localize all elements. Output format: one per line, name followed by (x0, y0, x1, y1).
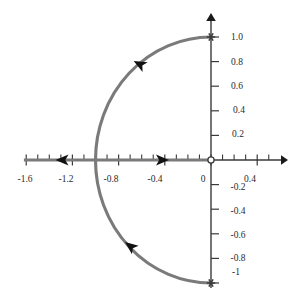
y-tick-label: 0.6 (231, 81, 243, 91)
x-tick-label: 0.4 (244, 174, 256, 184)
y-tick-label: -0.2 (230, 182, 245, 192)
x-tick-label: -1.6 (17, 174, 32, 184)
x-tick-label: -0.8 (103, 174, 118, 184)
y-tick-label: -0.4 (230, 206, 245, 216)
x-tick-label: -0.4 (147, 174, 162, 184)
x-tick-label: -1.2 (58, 174, 73, 184)
plot-background (0, 0, 290, 293)
y-tick-label: -0.8 (230, 253, 245, 263)
y-tick-label: 0.4 (233, 105, 245, 115)
x-tick-label: 0 (201, 174, 206, 184)
complex-plane-plot: -1.6-1.2-0.8-0.400.4 1.00.80.60.40.2-0.2… (0, 0, 290, 293)
y-tick-label: 0.2 (232, 129, 244, 139)
origin-open-circle (208, 157, 214, 163)
y-tick-label: -1 (232, 267, 240, 277)
y-tick-label: 0.8 (231, 57, 243, 67)
plot-canvas: -1.6-1.2-0.8-0.400.4 1.00.80.60.40.2-0.2… (0, 0, 290, 293)
y-tick-label: 1.0 (231, 32, 243, 42)
y-tick-label: -0.6 (230, 230, 245, 240)
